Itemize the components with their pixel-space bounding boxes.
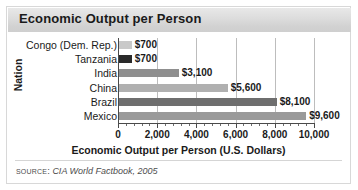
x-axis-minor-tick <box>165 124 166 126</box>
y-axis-tick-label: Congo (Dem. Rep.) <box>14 39 117 51</box>
page-title: Economic Output per Person <box>19 11 201 26</box>
x-axis-minor-tick <box>220 124 221 126</box>
x-axis-minor-tick <box>228 124 229 126</box>
bar <box>118 84 228 92</box>
bar <box>118 41 132 49</box>
x-axis-tick <box>236 124 237 128</box>
source-reference-label: CIA World Factbook, 2005 <box>52 166 157 176</box>
bar-value-label: $700 <box>135 39 157 50</box>
x-axis-minor-tick <box>142 124 143 126</box>
x-axis-minor-tick <box>181 124 182 126</box>
x-axis-tick-label: 4,000 <box>184 129 209 140</box>
bar <box>118 98 277 106</box>
x-axis-line <box>118 123 315 124</box>
x-axis-tick-label: 6,000 <box>223 129 248 140</box>
x-axis-tick-label: 10,000 <box>299 129 330 140</box>
x-axis-minor-tick <box>251 124 252 126</box>
grid-line <box>196 38 197 123</box>
x-axis-minor-tick <box>189 124 190 126</box>
grid-line <box>236 38 237 123</box>
bar-value-label: $9,600 <box>309 110 340 121</box>
x-axis-tick <box>196 124 197 128</box>
x-axis-minor-tick <box>290 124 291 126</box>
y-axis-tick-labels: Congo (Dem. Rep.)TanzaniaIndiaChinaBrazi… <box>12 38 117 124</box>
x-axis-minor-tick <box>298 124 299 126</box>
bar-value-label: $700 <box>135 53 157 64</box>
source-divider <box>15 160 342 161</box>
bar <box>118 69 179 77</box>
y-axis-tick-label: Mexico <box>14 110 117 122</box>
x-axis-minor-tick <box>126 124 127 126</box>
y-axis-line <box>118 38 119 124</box>
x-axis-minor-tick <box>173 124 174 126</box>
x-axis-tick <box>275 124 276 128</box>
x-axis-minor-tick <box>267 124 268 126</box>
x-axis-minor-tick <box>204 124 205 126</box>
plot-area <box>118 38 314 123</box>
x-axis-minor-tick <box>306 124 307 126</box>
x-axis-minor-tick <box>283 124 284 126</box>
chart-title-band: Economic Output per Person <box>8 8 351 32</box>
x-axis-tick-label: 0 <box>115 129 121 140</box>
x-axis-tick-label: 2,000 <box>145 129 170 140</box>
x-axis-tick <box>314 124 315 128</box>
chart-figure: Economic Output per Person Nation Congo … <box>6 6 351 184</box>
x-axis-tick <box>118 124 119 128</box>
y-axis-tick-label: Tanzania <box>14 53 117 65</box>
y-axis-tick-label: Brazil <box>14 96 117 108</box>
y-axis-tick-label: India <box>14 67 117 79</box>
source-note: Source: CIA World Factbook, 2005 <box>16 165 158 176</box>
bar <box>118 112 306 120</box>
x-axis-minor-tick <box>243 124 244 126</box>
x-axis-minor-tick <box>149 124 150 126</box>
source-prefix-label: Source: <box>16 165 50 176</box>
bar-value-label: $8,100 <box>280 96 311 107</box>
grid-line <box>275 38 276 123</box>
x-axis-tick-label: 8,000 <box>262 129 287 140</box>
bar <box>118 55 132 63</box>
x-axis-title: Economic Output per Person (U.S. Dollars… <box>7 144 350 156</box>
x-axis-minor-tick <box>212 124 213 126</box>
grid-line <box>157 38 158 123</box>
x-axis-tick <box>157 124 158 128</box>
y-axis-tick-label: China <box>14 82 117 94</box>
x-axis-minor-tick <box>134 124 135 126</box>
bar-value-label: $5,600 <box>231 82 262 93</box>
bar-value-label: $3,100 <box>182 67 213 78</box>
x-axis-minor-tick <box>259 124 260 126</box>
